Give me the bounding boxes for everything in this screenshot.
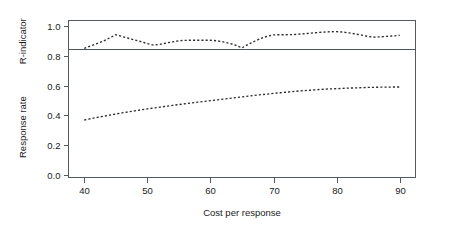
- plot-frame: [69, 21, 416, 178]
- y-axis-title-upper: R-indicator: [17, 18, 28, 64]
- y-tick-label: 0.4: [47, 110, 60, 121]
- y-tick-label: 0.6: [47, 81, 60, 92]
- x-tick-label: 50: [142, 185, 153, 196]
- y-axis-title-lower: Response rate: [17, 96, 28, 158]
- y-tick-label: 1.0: [47, 21, 60, 32]
- x-tick-label: 40: [79, 185, 90, 196]
- series-line-r-indicator: [84, 32, 399, 49]
- y-tick-label: 0.2: [47, 140, 60, 151]
- x-tick-label: 60: [205, 185, 216, 196]
- y-tick-label: 0.8: [47, 51, 60, 62]
- chart-canvas: 0.00.20.40.60.81.0405060708090Cost per r…: [0, 0, 450, 236]
- x-tick-label: 80: [332, 185, 343, 196]
- x-tick-label: 70: [269, 185, 280, 196]
- series-line-response-rate: [84, 87, 399, 120]
- x-tick-label: 90: [395, 185, 406, 196]
- x-axis-title: Cost per response: [203, 207, 281, 218]
- y-tick-label: 0.0: [47, 170, 60, 181]
- chart-figure: 0.00.20.40.60.81.0405060708090Cost per r…: [0, 0, 450, 236]
